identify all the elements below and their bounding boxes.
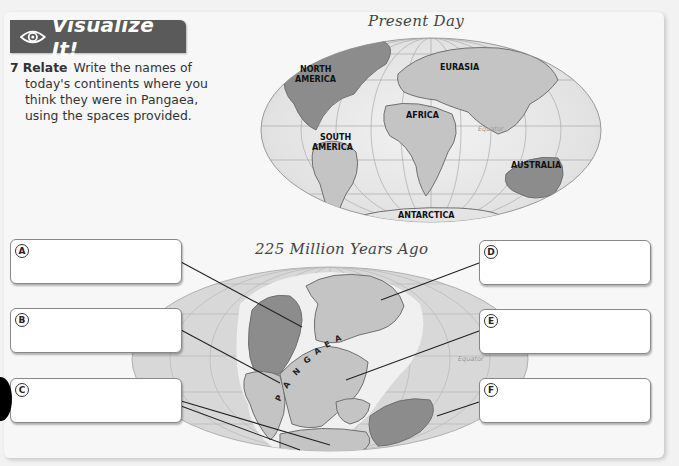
pangaea-map: P A N G A E A Equator [130,264,530,454]
eye-icon [20,29,46,45]
prompt-line-3: think they were in Pangaea, [10,92,250,108]
label-africa: AFRICA [406,111,440,120]
svg-text:AMERICA: AMERICA [312,143,354,152]
prompt-line-4: using the spaces provided. [10,108,250,124]
banner-title: Visualize It! [52,13,186,61]
answer-input-e[interactable] [502,324,646,344]
visualize-it-banner: Visualize It! [10,20,186,53]
label-north-america: NORTH [300,65,331,74]
answer-box-d[interactable]: D [479,240,651,285]
label-south-america: SOUTH [320,133,351,142]
answer-box-a[interactable]: A [10,239,182,284]
label-equator-past: Equator [458,355,485,363]
prompt-line-2: today's continents where you [10,76,250,92]
label-letter-c: C [15,383,29,397]
label-antarctica: ANTARCTICA [398,211,455,220]
answer-box-c[interactable]: C [10,378,182,423]
question-prompt: 7RelateWrite the names of today's contin… [10,60,250,124]
past-map-title: 225 Million Years Ago [255,240,428,258]
label-letter-a: A [15,244,29,258]
label-eurasia: EURASIA [440,63,480,72]
svg-text:AMERICA: AMERICA [295,75,337,84]
answer-input-c[interactable] [33,393,177,413]
present-day-title: Present Day [368,12,464,30]
label-equator: Equator [478,125,505,133]
question-keyword: Relate [23,60,68,75]
label-letter-f: F [484,383,498,397]
label-letter-e: E [484,314,498,328]
answer-input-b[interactable] [33,323,177,343]
answer-box-e[interactable]: E [479,309,651,354]
question-number: 7 [10,60,19,75]
label-letter-d: D [484,245,498,259]
label-australia: AUSTRALIA [511,161,562,170]
label-letter-b: B [15,313,29,327]
answer-input-f[interactable] [502,393,646,413]
prompt-line-1: 7RelateWrite the names of [10,60,250,76]
answer-input-d[interactable] [502,255,646,275]
answer-box-b[interactable]: B [10,308,182,353]
answer-input-a[interactable] [33,254,177,274]
answer-box-f[interactable]: F [479,378,651,423]
present-day-world-map: NORTH AMERICA EURASIA AFRICA SOUTH AMERI… [258,34,604,226]
